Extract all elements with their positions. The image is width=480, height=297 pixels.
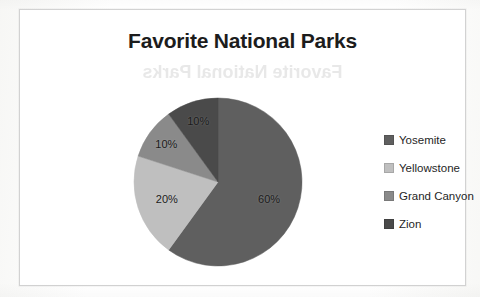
pie-label-yosemite: 60%	[258, 193, 280, 205]
legend-swatch-icon	[384, 219, 394, 229]
chart-title: Favorite National Parks	[20, 29, 465, 53]
legend-label: Yosemite	[399, 134, 446, 146]
chart-legend: YosemiteYellowstoneGrand CanyonZion	[384, 128, 480, 240]
legend-item-zion[interactable]: Zion	[384, 212, 480, 236]
pie-svg	[133, 97, 303, 267]
legend-swatch-icon	[384, 163, 394, 173]
ghost-bleed-text: Favorite National Parks	[20, 62, 465, 83]
pie-slice-group	[134, 98, 302, 266]
legend-item-grand-canyon[interactable]: Grand Canyon	[384, 184, 480, 208]
chart-frame: Favorite National Parks Favorite Nationa…	[19, 9, 466, 286]
legend-item-yellowstone[interactable]: Yellowstone	[384, 156, 480, 180]
pie-chart: 60%20%10%10%	[133, 97, 303, 267]
legend-swatch-icon	[384, 135, 394, 145]
pie-label-yellowstone: 20%	[156, 193, 178, 205]
legend-label: Yellowstone	[399, 162, 460, 174]
legend-swatch-icon	[384, 191, 394, 201]
pie-label-grand-canyon: 10%	[155, 138, 177, 150]
pie-label-zion: 10%	[187, 115, 209, 127]
legend-item-yosemite[interactable]: Yosemite	[384, 128, 480, 152]
legend-label: Grand Canyon	[399, 190, 474, 202]
legend-label: Zion	[399, 218, 421, 230]
